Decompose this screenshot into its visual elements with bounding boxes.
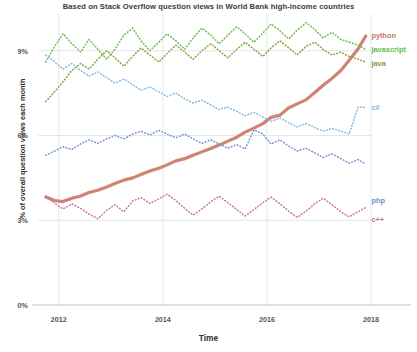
x-axis-tick: 2012	[51, 315, 67, 324]
x-axis-tick: 2018	[363, 315, 379, 324]
x-axis-tick: 2016	[259, 315, 275, 324]
series-label-php: php	[371, 196, 385, 205]
series-label-python: python	[371, 31, 396, 40]
x-axis-tick: 2014	[155, 315, 171, 324]
y-axis-tick: 0%	[2, 301, 28, 310]
series-line-php	[46, 130, 366, 164]
series-line-c#	[46, 55, 366, 134]
series-label-c#: c#	[371, 103, 379, 112]
y-axis-tick: 6%	[2, 131, 28, 140]
series-line-java	[46, 41, 366, 102]
series-line-c++	[46, 194, 366, 219]
plot-area	[0, 0, 417, 352]
series-line-javascript	[46, 22, 366, 62]
chart-container: Based on Stack Overflow question views i…	[0, 0, 417, 352]
y-axis-tick: 9%	[2, 47, 28, 56]
series-label-c++: c++	[371, 215, 384, 224]
series-label-java: java	[371, 59, 385, 68]
series-line-python	[46, 36, 366, 202]
y-axis-tick: 3%	[2, 216, 28, 225]
series-label-javascript: javascript	[371, 45, 406, 54]
